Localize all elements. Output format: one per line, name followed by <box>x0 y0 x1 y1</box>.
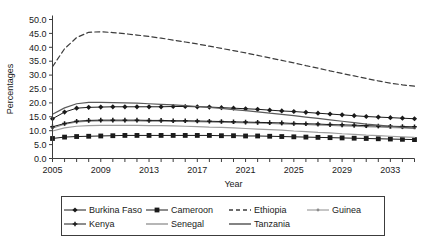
series-marker <box>86 134 91 139</box>
legend-marker-sample <box>155 208 160 213</box>
x-tick-label: 2021 <box>236 165 256 175</box>
series-marker <box>267 134 272 139</box>
series-marker <box>279 134 284 139</box>
series-marker <box>400 137 405 142</box>
y-tick-label: 10.0 <box>29 126 47 136</box>
series-marker <box>219 133 224 138</box>
x-tick-label: 2009 <box>91 165 111 175</box>
series-marker <box>340 136 345 141</box>
series-marker <box>62 135 67 140</box>
legend-item-label: Ethiopia <box>254 205 287 215</box>
series-marker <box>207 133 212 138</box>
legend-item-label: Senegal <box>171 219 204 229</box>
y-tick-label: 0.0 <box>34 154 47 164</box>
x-tick-label: 2033 <box>380 165 400 175</box>
series-marker <box>388 137 393 142</box>
legend-item-label: Cameroon <box>171 205 213 215</box>
series-marker <box>123 133 128 138</box>
series-marker <box>328 135 333 140</box>
legend-item-label: Burkina Faso <box>89 205 142 215</box>
series-marker <box>352 136 357 141</box>
series-marker <box>171 133 176 138</box>
series-marker <box>376 136 381 141</box>
legend-item-label: Kenya <box>89 219 115 229</box>
y-tick-label: 25.0 <box>29 84 47 94</box>
series-marker <box>255 134 260 139</box>
series-marker <box>231 133 236 138</box>
y-tick-label: 50.0 <box>29 15 47 25</box>
x-axis-title-label: Year <box>224 179 242 189</box>
series-marker <box>243 134 248 139</box>
series-marker <box>364 136 369 141</box>
series-marker <box>291 134 296 139</box>
x-tick-label: 2005 <box>42 165 62 175</box>
x-axis-title: Year <box>224 179 242 189</box>
line-chart-figure: Percentages 2005200920132017202120252029… <box>0 0 446 246</box>
y-tick-label: 45.0 <box>29 29 47 39</box>
series-marker <box>98 134 103 139</box>
y-tick-label: 30.0 <box>29 70 47 80</box>
series-marker <box>195 133 200 138</box>
x-tick-label: 2029 <box>332 165 352 175</box>
series-marker <box>74 134 79 139</box>
y-tick-label: 40.0 <box>29 43 47 53</box>
series-marker <box>183 133 188 138</box>
legend-item-label: Guinea <box>332 205 361 215</box>
series-marker <box>135 133 140 138</box>
y-tick-label: 15.0 <box>29 112 47 122</box>
y-tick-label: 35.0 <box>29 56 47 66</box>
y-tick-label: 5.0 <box>34 140 47 150</box>
series-marker <box>147 133 152 138</box>
series-marker <box>110 133 115 138</box>
legend-item-label: Tanzania <box>254 219 290 229</box>
y-tick-label: 20.0 <box>29 98 47 108</box>
y-axis-title-label: Percentages <box>5 63 15 114</box>
series-marker <box>316 135 321 140</box>
series-marker <box>304 135 309 140</box>
x-tick-label: 2017 <box>187 165 207 175</box>
legend-marker-sample <box>317 209 320 212</box>
x-tick-label: 2025 <box>284 165 304 175</box>
y-axis-title: Percentages <box>5 63 15 114</box>
x-tick-label: 2013 <box>139 165 159 175</box>
series-marker <box>159 133 164 138</box>
